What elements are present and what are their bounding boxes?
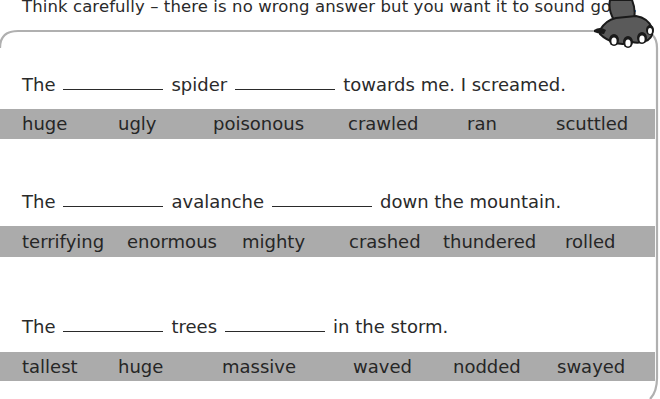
word-option[interactable]: waved [353, 356, 412, 377]
word-bank-1: huge ugly poisonous crawled ran scuttled [0, 109, 655, 139]
word-option[interactable]: scuttled [556, 113, 628, 134]
word-option[interactable]: ran [467, 113, 497, 134]
answer-blank-verb[interactable] [225, 330, 325, 332]
word-option[interactable]: ugly [118, 113, 157, 134]
answer-blank-adjective[interactable] [63, 88, 163, 90]
word-option[interactable]: massive [222, 356, 296, 377]
instruction-text: Think carefully – there is no wrong answ… [22, 0, 637, 16]
word-option[interactable]: tallest [22, 356, 78, 377]
claw-icon [592, 0, 658, 50]
sentence-text: down the mountain. [380, 191, 561, 212]
word-option[interactable]: crashed [349, 231, 421, 252]
sentence-text: spider [171, 74, 227, 95]
word-option[interactable]: nodded [453, 356, 521, 377]
word-option[interactable]: swayed [557, 356, 625, 377]
answer-blank-adjective[interactable] [63, 330, 163, 332]
word-option[interactable]: huge [22, 113, 67, 134]
answer-blank-verb[interactable] [272, 205, 372, 207]
word-option[interactable]: mighty [242, 231, 305, 252]
answer-blank-verb[interactable] [235, 88, 335, 90]
word-bank-2: terrifying enormous mighty crashed thund… [0, 226, 655, 257]
sentence-text: trees [171, 316, 217, 337]
word-option[interactable]: poisonous [213, 113, 304, 134]
word-option[interactable]: terrifying [22, 231, 104, 252]
sentence-text: in the storm. [333, 316, 448, 337]
sentence-text: The [22, 316, 55, 337]
word-bank-3: tallest huge massive waved nodded swayed [0, 352, 655, 381]
sentence-text: towards me. I screamed. [343, 74, 566, 95]
word-option[interactable]: huge [118, 356, 163, 377]
word-option[interactable]: crawled [348, 113, 419, 134]
answer-blank-adjective[interactable] [63, 205, 163, 207]
word-option[interactable]: rolled [565, 231, 616, 252]
sentence-text: The [22, 191, 55, 212]
word-option[interactable]: enormous [127, 231, 217, 252]
sentence-1: The spider towards me. I screamed. [22, 74, 566, 95]
sentence-2: The avalanche down the mountain. [22, 191, 561, 212]
word-option[interactable]: thundered [443, 231, 536, 252]
sentence-3: The trees in the storm. [22, 316, 448, 337]
sentence-text: The [22, 74, 55, 95]
sentence-text: avalanche [171, 191, 264, 212]
